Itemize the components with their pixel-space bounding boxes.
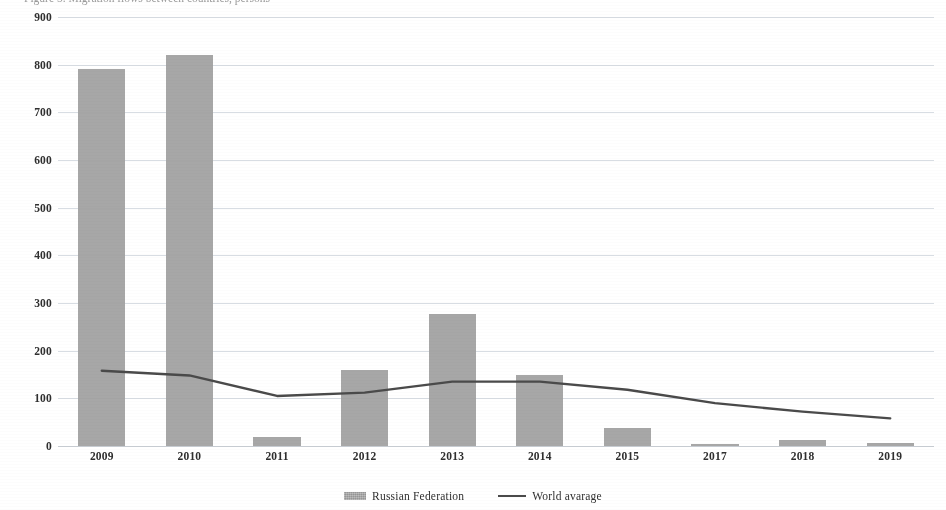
legend-label-russian-federation: Russian Federation	[372, 490, 464, 502]
y-axis: 0100200300400500600700800900	[0, 17, 52, 446]
x-tick-label: 2013	[440, 450, 464, 462]
x-tick-label: 2011	[265, 450, 288, 462]
plot-area	[58, 17, 934, 446]
gridline	[58, 446, 934, 447]
y-tick-label: 700	[0, 106, 52, 118]
x-tick-label: 2014	[528, 450, 552, 462]
x-tick-label: 2009	[90, 450, 114, 462]
y-tick-label: 800	[0, 59, 52, 71]
y-tick-label: 600	[0, 154, 52, 166]
x-tick-label: 2010	[177, 450, 201, 462]
y-tick-label: 900	[0, 11, 52, 23]
x-axis: 2009201020112012201320142015201720182019	[58, 450, 934, 472]
combo-chart: 0100200300400500600700800900 20092010201…	[0, 0, 946, 510]
world-avarage-polyline	[102, 371, 890, 419]
x-tick-label: 2017	[703, 450, 727, 462]
legend-item-world-avarage: World avarage	[498, 490, 602, 502]
x-tick-label: 2019	[878, 450, 902, 462]
y-tick-label: 400	[0, 249, 52, 261]
y-tick-label: 200	[0, 345, 52, 357]
x-tick-label: 2015	[615, 450, 639, 462]
bar-swatch-icon	[344, 492, 366, 500]
y-tick-label: 0	[0, 440, 52, 452]
legend-label-world-avarage: World avarage	[532, 490, 602, 502]
x-tick-label: 2018	[791, 450, 815, 462]
line-swatch-icon	[498, 495, 526, 497]
y-tick-label: 300	[0, 297, 52, 309]
y-tick-label: 100	[0, 392, 52, 404]
line-series-world-avarage	[58, 17, 934, 446]
chart-legend: Russian Federation World avarage	[0, 487, 946, 505]
legend-item-russian-federation: Russian Federation	[344, 490, 464, 502]
x-tick-label: 2012	[353, 450, 377, 462]
y-tick-label: 500	[0, 202, 52, 214]
